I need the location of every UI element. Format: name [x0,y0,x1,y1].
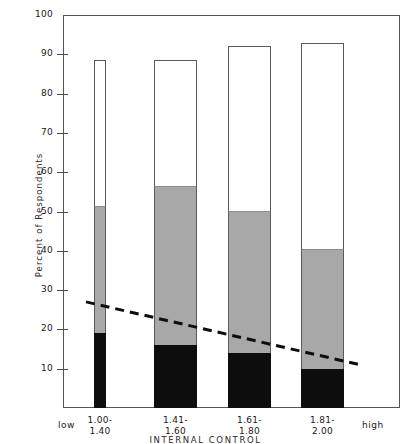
bar-segment-black [94,333,106,408]
y-axis-tick-label-text: 100 [35,9,53,19]
x-axis-label-line1: 1.41- [150,415,202,426]
bar-segment-gray [154,186,197,345]
y-axis-tick-label-text: 10 [41,363,53,373]
y-axis-tick [57,133,68,134]
x-axis-low-label: low [58,420,75,430]
x-axis-label-4: 1.81-2.00 [297,415,349,437]
bar-segment-gray [94,206,106,334]
y-axis-tick-label-text: 40 [41,245,53,255]
x-axis-label-1: 1.00-1.40 [74,415,126,437]
y-axis-tick-label-text: 90 [41,48,53,58]
y-axis-tick-label-text: 20 [41,323,53,333]
x-axis-label-line1: 1.00- [74,415,126,426]
x-axis-label-line1: 1.81- [297,415,349,426]
bar-segment-gray [228,211,271,352]
bar-segment-black [228,353,271,408]
bar-segment-white [154,60,197,186]
y-axis-tick-label-text: 50 [41,206,53,216]
y-axis-tick-label-text: 60 [41,166,53,176]
x-axis-label-line1: 1.61- [224,415,276,426]
bar-segment-white [228,46,271,211]
y-axis-tick-label-text: 30 [41,284,53,294]
bar-segment-white [94,60,106,205]
chart-container: Percent of Respondents 10090807060504030… [0,0,411,444]
x-axis-title: INTERNAL CONTROL [0,435,411,444]
bar-1 [94,60,106,408]
bar-3 [228,46,271,408]
bar-segment-gray [301,249,344,369]
y-axis-tick [57,290,68,291]
y-axis-tick [57,329,68,330]
x-axis-label-2: 1.41-1.60 [150,415,202,437]
bar-segment-white [301,43,344,249]
y-axis-tick [57,54,68,55]
x-axis-high-label: high [362,420,384,430]
y-axis-tick [57,172,68,173]
y-axis-tick [57,251,68,252]
bar-2 [154,60,197,408]
bar-segment-black [154,345,197,408]
bar-4 [301,43,344,408]
bar-segment-black [301,369,344,408]
y-axis-tick [57,369,68,370]
y-axis-tick-label-text: 80 [41,88,53,98]
x-axis-label-3: 1.61-1.80 [224,415,276,437]
y-axis-tick [57,212,68,213]
y-axis-tick [57,94,68,95]
y-axis-tick-label-text: 70 [41,127,53,137]
